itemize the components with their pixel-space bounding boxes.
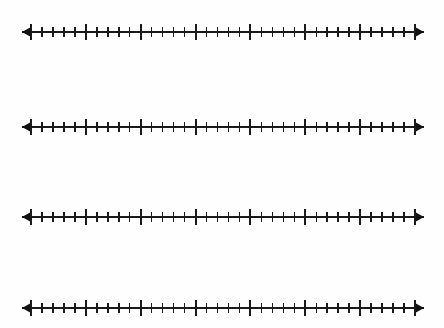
number-line-1-graphic [0,12,444,52]
arrow-left-icon [22,122,31,132]
arrow-left-icon [22,212,31,222]
arrow-right-icon [415,212,424,222]
number-line-worksheet [0,0,444,328]
number-line-2[interactable] [0,107,444,147]
number-line-3[interactable] [0,197,444,237]
number-line-2-graphic [0,107,444,147]
number-line-4[interactable] [0,288,444,328]
arrow-left-icon [22,27,31,37]
number-line-1[interactable] [0,12,444,52]
number-line-4-graphic [0,288,444,328]
arrow-right-icon [415,122,424,132]
arrow-right-icon [415,27,424,37]
arrow-right-icon [415,303,424,313]
arrow-left-icon [22,303,31,313]
number-line-3-graphic [0,197,444,237]
